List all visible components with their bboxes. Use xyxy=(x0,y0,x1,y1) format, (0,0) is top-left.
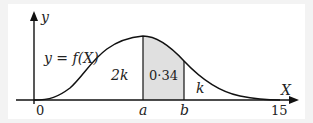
origin-label: 0 xyxy=(36,103,44,118)
region-left-label: 2k xyxy=(110,67,128,83)
x-axis-label: X xyxy=(280,82,292,98)
region-middle-label: 0·34 xyxy=(149,68,178,83)
marker-b-label: b xyxy=(180,102,189,118)
region-right-label: k xyxy=(196,80,204,96)
y-axis-label: y xyxy=(40,9,50,25)
marker-a-label: a xyxy=(139,102,147,118)
curve-label: y = f(X) xyxy=(43,50,99,66)
y-axis-arrow-icon xyxy=(30,11,38,21)
pdf-diagram: y X 0 15 y = f(X) a b 2k 0·34 k xyxy=(0,0,313,123)
diagram-frame: y X 0 15 y = f(X) a b 2k 0·34 k xyxy=(0,0,313,123)
x-end-label: 15 xyxy=(271,103,288,118)
